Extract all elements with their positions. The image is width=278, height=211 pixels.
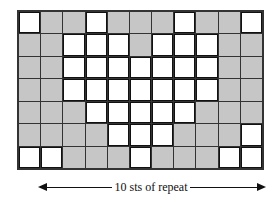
chart-cell	[219, 79, 240, 100]
chart-cell	[41, 57, 62, 78]
chart-cell	[196, 12, 217, 33]
chart-cell	[108, 34, 129, 55]
repeat-label: 10 sts of repeat	[112, 180, 190, 195]
chart-cell	[63, 34, 84, 55]
chart-cell	[86, 102, 107, 123]
chart-cell	[196, 57, 217, 78]
chart-cell	[174, 147, 195, 168]
chart-cell	[130, 34, 151, 55]
chart-cell	[19, 57, 40, 78]
chart-cell	[19, 79, 40, 100]
chart-cell	[86, 34, 107, 55]
chart-cell	[86, 57, 107, 78]
chart-cell	[174, 102, 195, 123]
chart-cell	[241, 12, 262, 33]
chart-cell	[41, 102, 62, 123]
chart-cell	[219, 124, 240, 145]
chart-cell	[108, 124, 129, 145]
chart-cell	[152, 102, 173, 123]
chart-cell	[108, 79, 129, 100]
chart-cell	[152, 124, 173, 145]
chart-cell	[108, 12, 129, 33]
chart-cell	[108, 57, 129, 78]
chart-cell	[108, 147, 129, 168]
chart-cell	[41, 79, 62, 100]
chart-cell	[219, 147, 240, 168]
chart-cell	[196, 147, 217, 168]
chart-cell	[19, 124, 40, 145]
chart-cell	[152, 147, 173, 168]
chart-cell	[196, 124, 217, 145]
chart-cell	[130, 57, 151, 78]
chart-cell	[219, 34, 240, 55]
arrow-right-icon	[257, 183, 266, 191]
chart-cell	[241, 147, 262, 168]
chart-cell	[219, 102, 240, 123]
chart-cell	[63, 12, 84, 33]
arrow-line-right	[190, 187, 260, 188]
chart-cell	[130, 124, 151, 145]
chart-cell	[174, 79, 195, 100]
chart-cell	[86, 79, 107, 100]
chart-cell	[108, 102, 129, 123]
chart-cell	[19, 12, 40, 33]
knitting-chart-grid	[17, 10, 264, 170]
chart-cell	[241, 102, 262, 123]
chart-cell	[19, 102, 40, 123]
chart-cell	[130, 12, 151, 33]
chart-cell	[241, 124, 262, 145]
chart-cell	[19, 34, 40, 55]
chart-cell	[196, 102, 217, 123]
chart-cell	[130, 147, 151, 168]
chart-cell	[63, 57, 84, 78]
chart-cell	[219, 12, 240, 33]
chart-cell	[196, 34, 217, 55]
chart-cell	[152, 12, 173, 33]
chart-cell	[86, 147, 107, 168]
chart-cell	[241, 57, 262, 78]
chart-cell	[130, 102, 151, 123]
chart-cell	[241, 34, 262, 55]
chart-cell	[41, 124, 62, 145]
chart-cell	[219, 57, 240, 78]
chart-cell	[63, 102, 84, 123]
chart-cell	[41, 147, 62, 168]
chart-cell	[19, 147, 40, 168]
chart-cell	[196, 79, 217, 100]
chart-cell	[241, 79, 262, 100]
chart-cell	[63, 79, 84, 100]
chart-cell	[174, 12, 195, 33]
chart-cell	[152, 57, 173, 78]
chart-cell	[63, 147, 84, 168]
arrow-line-left	[40, 187, 112, 188]
chart-cell	[174, 34, 195, 55]
chart-cell	[152, 34, 173, 55]
chart-cell	[152, 79, 173, 100]
chart-cell	[174, 124, 195, 145]
chart-cell	[63, 124, 84, 145]
chart-cell	[174, 57, 195, 78]
chart-cell	[41, 12, 62, 33]
chart-cell	[130, 79, 151, 100]
chart-cell	[86, 124, 107, 145]
chart-cell	[41, 34, 62, 55]
chart-cell	[86, 12, 107, 33]
